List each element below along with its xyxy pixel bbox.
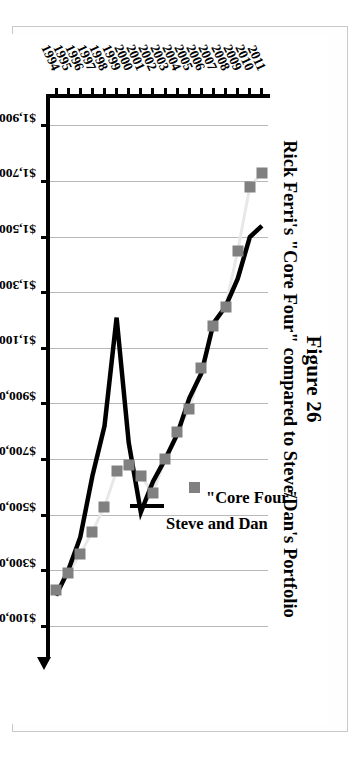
- data-point-marker: [196, 362, 207, 373]
- data-point-marker: [232, 245, 243, 256]
- legend-label-steve-and-dan: Steve and Dan: [166, 514, 268, 534]
- steve-and-dan-legend-swatch-icon: [130, 504, 164, 508]
- data-point-marker: [220, 301, 231, 312]
- value-axis-label: $500,000: [0, 499, 36, 515]
- data-point-marker: [99, 501, 110, 512]
- value-axis-label: $700,000: [0, 443, 36, 459]
- data-point-marker: [208, 320, 219, 331]
- data-point-marker: [147, 487, 158, 498]
- chart-title: Rick Ferri's "Core Four" compared to Ste…: [279, 34, 300, 724]
- data-point-marker: [123, 459, 134, 470]
- value-axis-label: $1,100,000: [0, 332, 36, 348]
- value-axis-label: $1,500,000: [0, 221, 36, 237]
- rotated-figure-wrapper: Figure 26 Rick Ferri's "Core Four" compa…: [8, 34, 328, 724]
- category-axis-arrowhead: [37, 657, 51, 670]
- value-axis-label: $1,900,000: [0, 110, 36, 126]
- data-point-marker: [111, 465, 122, 476]
- figure-number-title: Figure 26: [301, 34, 326, 724]
- value-axis-label: $300,000: [0, 555, 36, 571]
- data-point-marker: [256, 168, 267, 179]
- data-point-marker: [75, 548, 86, 559]
- value-axis-line: [48, 94, 270, 98]
- figure-page: Figure 26 Rick Ferri's "Core Four" compa…: [0, 0, 361, 757]
- data-point-marker: [172, 426, 183, 437]
- value-axis-label: $1,300,000: [0, 277, 36, 293]
- legend-label-core-four: "Core Four": [206, 488, 298, 508]
- value-axis-label: $100,000: [0, 610, 36, 626]
- data-point-marker: [244, 181, 255, 192]
- chart-canvas: Figure 26 Rick Ferri's "Core Four" compa…: [8, 34, 328, 724]
- data-point-marker: [87, 526, 98, 537]
- data-point-marker: [160, 454, 171, 465]
- data-point-marker: [135, 471, 146, 482]
- data-point-marker: [184, 404, 195, 415]
- data-point-marker: [51, 585, 62, 596]
- plot-area: "Core Four" Steve and Dan: [50, 98, 268, 654]
- category-axis-line: [46, 94, 50, 658]
- value-axis-label: $900,000: [0, 388, 36, 404]
- data-point-marker: [63, 568, 74, 579]
- series-lines: [50, 98, 268, 654]
- value-axis-label: $1,700,000: [0, 165, 36, 181]
- core-four-legend-swatch-icon: [189, 482, 200, 493]
